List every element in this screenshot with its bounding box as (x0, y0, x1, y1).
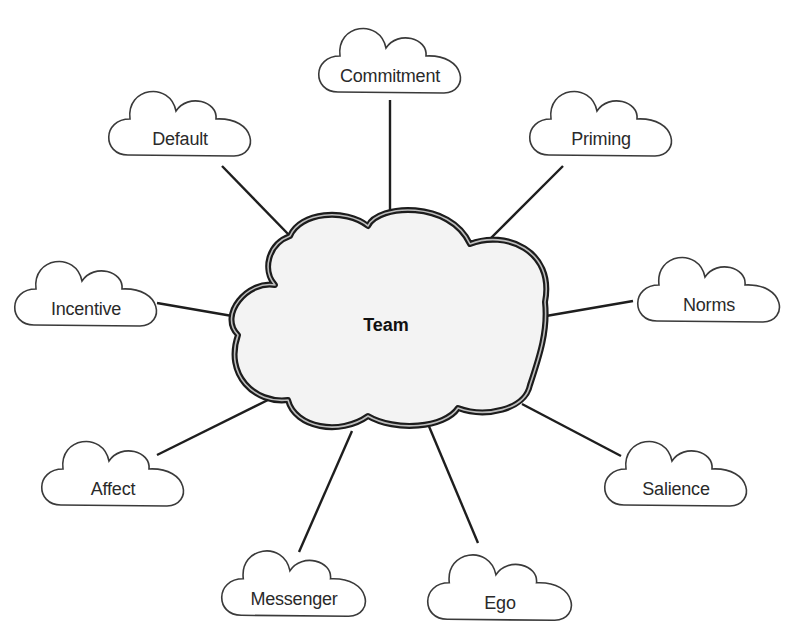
connector-norms (546, 301, 633, 316)
connector-messenger (299, 431, 352, 552)
node-label-messenger: Messenger (250, 589, 337, 610)
node-label-salience: Salience (642, 479, 709, 500)
center-node-label: Team (363, 315, 409, 336)
node-label-affect: Affect (91, 479, 136, 500)
node-label-norms: Norms (683, 295, 735, 316)
connector-affect (157, 398, 272, 455)
node-label-ego: Ego (484, 593, 515, 614)
connector-default (222, 166, 290, 236)
node-label-priming: Priming (571, 129, 631, 150)
connector-salience (522, 404, 621, 456)
connector-incentive (157, 303, 238, 317)
node-label-commitment: Commitment (340, 66, 440, 87)
node-label-default: Default (152, 129, 208, 150)
connector-ego (428, 424, 478, 543)
node-label-incentive: Incentive (51, 299, 121, 320)
